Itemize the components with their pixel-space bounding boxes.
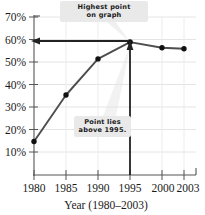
y-tick-label-70: 70% bbox=[5, 11, 27, 23]
y-tick-label-10: 10% bbox=[5, 146, 27, 158]
y-tick-label-30: 30% bbox=[5, 101, 27, 113]
line-chart: 70% 60% 50% 40% 30% 20% 10% 1980 1985 19… bbox=[0, 0, 205, 215]
x-tick-label-1990: 1990 bbox=[87, 182, 110, 194]
y-tick-label-40: 40% bbox=[5, 79, 27, 91]
horizontal-reference-arrow bbox=[31, 38, 129, 45]
y-tick-label-60: 60% bbox=[5, 34, 27, 46]
chart-plot-area: 70% 60% 50% 40% 30% 20% 10% 1980 1985 19… bbox=[0, 0, 205, 215]
x-tick-label-2000: 2000 bbox=[152, 182, 175, 194]
highest-point-callout: Highest point on graph bbox=[60, 1, 148, 22]
x-tick-label-2003: 2003 bbox=[177, 182, 200, 194]
point-above-1995-callout: Point lies above 1995. bbox=[74, 116, 131, 137]
x-axis-title: Year (1980–2003) bbox=[64, 199, 148, 212]
x-tick-label-1995: 1995 bbox=[119, 182, 142, 194]
x-tick-label-1985: 1985 bbox=[55, 182, 78, 194]
y-tick-label-20: 20% bbox=[5, 124, 27, 136]
y-tick-label-50: 50% bbox=[5, 56, 27, 68]
x-tick-label-1980: 1980 bbox=[23, 182, 46, 194]
callout-leader-shapes bbox=[101, 17, 131, 116]
